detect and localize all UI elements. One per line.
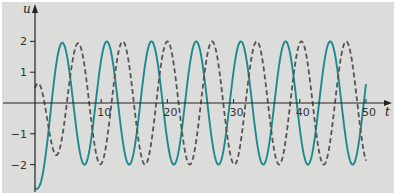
x-tick-label: 10	[97, 106, 111, 119]
line-chart: 1020304050 21−1−2 t u	[0, 0, 396, 196]
y-axis-label: u	[23, 2, 31, 16]
x-tick-label: 20	[163, 106, 177, 119]
series-layer	[35, 41, 366, 189]
x-tick-label: 30	[230, 106, 244, 119]
y-tick-label: 2	[20, 35, 27, 48]
y-tick-label: −2	[11, 159, 27, 172]
x-tick-label: 40	[296, 106, 310, 119]
y-tick-label: −1	[11, 128, 27, 141]
y-tick-label: 1	[20, 66, 27, 79]
axes: 1020304050 21−1−2 t u	[3, 2, 392, 192]
x-tick-label: 50	[362, 106, 376, 119]
y-axis-arrow-icon	[32, 4, 38, 13]
x-axis-label: t	[385, 105, 390, 119]
